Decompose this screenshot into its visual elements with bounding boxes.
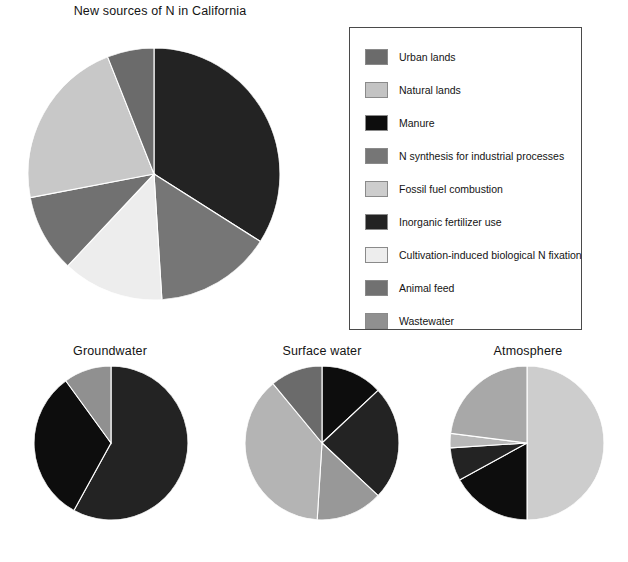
legend-swatch-icon xyxy=(365,313,388,329)
legend-item: Cultivation-induced biological N fixatio… xyxy=(365,238,575,271)
legend-item-label: N synthesis for industrial processes xyxy=(399,150,564,162)
pie-block-atmosphere: Atmosphere xyxy=(428,344,628,559)
pie-slice xyxy=(527,366,604,520)
pie-block-groundwater: Groundwater xyxy=(10,344,210,559)
pie-slice xyxy=(451,366,527,443)
legend-item: Manure xyxy=(365,106,575,139)
legend-item-label: Cultivation-induced biological N fixatio… xyxy=(399,249,582,261)
pie-svg-groundwater xyxy=(34,366,188,520)
pie-svg-atmosphere xyxy=(450,366,604,520)
pie-svg-new-sources xyxy=(28,48,280,300)
legend-swatch-icon xyxy=(365,115,388,131)
pie-block-new-sources: New sources of N in California xyxy=(0,0,320,320)
pie-chart-atmosphere xyxy=(450,366,604,520)
pie-chart-groundwater xyxy=(34,366,188,520)
legend-item: Animal feed xyxy=(365,271,575,304)
pie-svg-surface-water xyxy=(245,366,399,520)
legend-swatch-icon xyxy=(365,148,388,164)
legend-item: Wastewater xyxy=(365,304,575,337)
legend-item-label: Fossil fuel combustion xyxy=(399,183,503,195)
legend-swatch-icon xyxy=(365,280,388,296)
legend-item: Urban lands xyxy=(365,40,575,73)
legend-swatch-icon xyxy=(365,82,388,98)
legend-swatch-icon xyxy=(365,214,388,230)
pie-chart-new-sources xyxy=(28,48,280,300)
pie-title-new-sources: New sources of N in California xyxy=(0,4,320,18)
legend-item-label: Urban lands xyxy=(399,51,456,63)
legend-item: Fossil fuel combustion xyxy=(365,172,575,205)
figure-canvas: New sources of N in California Urban lan… xyxy=(0,0,628,562)
legend-swatch-icon xyxy=(365,247,388,263)
legend-item-label: Animal feed xyxy=(399,282,454,294)
pie-block-surface-water: Surface water xyxy=(222,344,422,559)
legend-item-label: Wastewater xyxy=(399,315,454,327)
legend-item-label: Natural lands xyxy=(399,84,461,96)
legend-item: N synthesis for industrial processes xyxy=(365,139,575,172)
pie-title-surface-water: Surface water xyxy=(222,344,422,358)
legend-swatch-icon xyxy=(365,181,388,197)
pie-title-groundwater: Groundwater xyxy=(10,344,210,358)
legend-swatch-icon xyxy=(365,49,388,65)
legend-box: Urban landsNatural landsManureN synthesi… xyxy=(349,27,582,330)
pie-chart-surface-water xyxy=(245,366,399,520)
legend-item-label: Manure xyxy=(399,117,435,129)
legend-item: Inorganic fertilizer use xyxy=(365,205,575,238)
pie-title-atmosphere: Atmosphere xyxy=(428,344,628,358)
legend-item: Natural lands xyxy=(365,73,575,106)
legend-item-label: Inorganic fertilizer use xyxy=(399,216,502,228)
legend-list: Urban landsNatural landsManureN synthesi… xyxy=(365,40,575,337)
